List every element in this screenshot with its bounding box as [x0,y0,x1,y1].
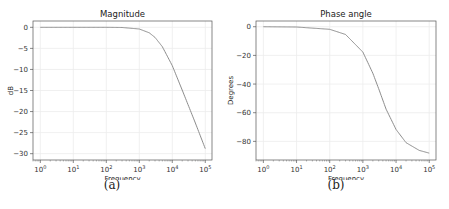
y-tick-label: −60 [236,109,251,117]
x-tick-label: 103 [133,164,145,174]
x-tick-label: 102 [324,164,336,174]
x-tick-label: 105 [423,164,435,174]
x-tick-label: 101 [290,164,302,174]
y-tick-label: −40 [236,81,251,89]
y-tick-label: −5 [18,45,28,53]
y-tick-label: −20 [236,52,251,60]
x-tick-label: 100 [34,164,46,174]
y-tick-label: −80 [236,138,251,146]
x-tick-label: 101 [67,164,79,174]
caption-a: (a) [0,178,224,192]
x-tick-label: 104 [166,164,178,174]
x-tick-label: 102 [100,164,112,174]
x-tick-label: 105 [199,164,211,174]
plot-area: 1001011021031041050−5−10−15−20−25−30Magn… [7,9,212,180]
magnitude-chart: 1001011021031041050−5−10−15−20−25−30Magn… [0,0,224,180]
y-axis-label: dB [7,86,15,95]
caption-b: (b) [224,178,448,192]
chart-title: Phase angle [320,9,372,19]
y-tick-label: −15 [13,87,28,95]
series-line [40,27,205,148]
x-tick-label: 103 [357,164,369,174]
y-tick-label: 0 [24,24,28,32]
series-line [263,27,429,153]
y-tick-label: −30 [13,150,28,158]
x-tick-label: 104 [390,164,402,174]
phase-chart-panel: 1001011021031041050−20−40−60−80Phase ang… [224,0,448,209]
axes-frame [256,21,436,160]
y-tick-label: −25 [13,129,28,137]
chart-title: Magnitude [100,9,145,19]
x-tick-label: 100 [257,164,269,174]
y-tick-label: −10 [13,66,28,74]
plot-area: 1001011021031041050−20−40−60−80Phase ang… [227,9,436,180]
y-tick-label: −20 [13,108,28,116]
magnitude-chart-panel: 1001011021031041050−5−10−15−20−25−30Magn… [0,0,224,209]
y-axis-label: Degrees [227,76,235,105]
phase-chart: 1001011021031041050−20−40−60−80Phase ang… [224,0,449,180]
y-tick-label: 0 [247,23,251,31]
